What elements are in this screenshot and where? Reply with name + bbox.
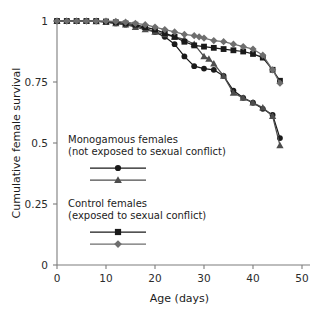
square-marker (191, 43, 197, 49)
circle-marker (191, 63, 197, 69)
circle-marker (211, 67, 217, 73)
y-tick-label: 0.25 (25, 198, 48, 210)
legend-subtitle: (exposed to sexual conflict) (68, 210, 206, 221)
y-tick-label: 0.75 (25, 76, 48, 88)
x-tick-label: 30 (197, 272, 210, 284)
x-tick-label: 0 (54, 272, 61, 284)
square-marker (221, 46, 227, 52)
x-axis-title: Age (days) (150, 292, 209, 305)
square-marker (182, 39, 188, 45)
x-tick-label: 20 (148, 272, 161, 284)
circle-marker (115, 165, 121, 171)
y-tick-label: 1 (41, 15, 48, 27)
circle-marker (172, 41, 178, 47)
x-tick-label: 50 (295, 272, 308, 284)
circle-marker (182, 53, 188, 59)
y-axis-title: Cumulative female survival (10, 68, 23, 219)
legend-subtitle: (not exposed to sexual conflict) (68, 146, 226, 157)
square-marker (115, 229, 121, 235)
circle-marker (201, 66, 207, 72)
chart-background (0, 0, 325, 317)
y-tick-label: 0.5 (31, 137, 48, 149)
x-tick-label: 10 (99, 272, 112, 284)
square-marker (201, 44, 207, 50)
square-marker (231, 47, 237, 53)
y-tick-label: 0 (41, 259, 48, 271)
square-marker (211, 45, 217, 51)
legend-title: Monogamous females (68, 134, 178, 145)
legend-title: Control females (68, 198, 147, 209)
x-tick-label: 40 (246, 272, 259, 284)
survival-curve-chart: 00.250.50.75101020304050 Monogamous fema… (0, 0, 325, 317)
